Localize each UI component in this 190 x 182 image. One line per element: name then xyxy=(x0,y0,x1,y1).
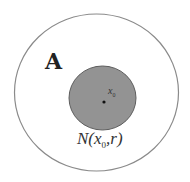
neighborhood-var: x xyxy=(94,129,102,148)
set-a-label: A xyxy=(45,48,62,74)
center-point xyxy=(102,100,105,103)
neighborhood-prefix: N( xyxy=(77,129,94,148)
set-diagram xyxy=(0,0,190,182)
point-subscript: 0 xyxy=(112,92,115,98)
neighborhood-suffix: ,r) xyxy=(106,129,123,148)
neighborhood-label: N(x0,r) xyxy=(77,130,123,150)
point-x0-label: x0 xyxy=(108,86,115,98)
neighborhood-disk xyxy=(69,66,136,130)
